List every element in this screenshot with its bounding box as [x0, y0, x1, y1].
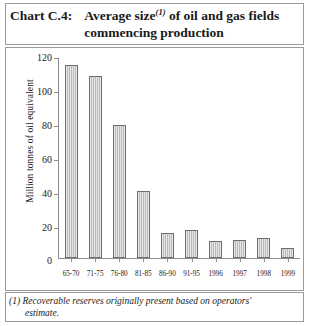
x-tick-mark [288, 258, 289, 262]
y-tick-label: 100 [37, 87, 52, 97]
bar [113, 125, 126, 258]
x-tick-mark [71, 258, 72, 262]
footnote-block: (1) Recoverable reserves originally pres… [5, 292, 304, 322]
bar [209, 241, 222, 258]
footnote-marker: (1) [156, 7, 166, 17]
bar [233, 240, 246, 258]
x-tick-label: 91-95 [183, 270, 200, 278]
bar [89, 76, 102, 258]
x-tick-label: 1997 [233, 270, 247, 278]
footnote-line-1: (1) Recoverable reserves originally pres… [9, 296, 251, 306]
y-tick-label: 0 [47, 256, 52, 266]
plot-area: 65-7071-7576-8081-8586-9091-951996199719… [58, 58, 300, 259]
y-axis-ticks: 120 100 80 60 40 20 0 [26, 48, 54, 292]
chart-figure: Chart C.4: Average size(1) of oil and ga… [0, 0, 309, 326]
x-tick-mark [143, 258, 144, 262]
page-title: Average size(1) of oil and gas fields co… [84, 7, 301, 41]
bar-slot: 1999 [276, 58, 300, 258]
bar [65, 65, 78, 258]
bar-slot: 76-80 [107, 58, 131, 258]
bar-slot: 65-70 [59, 58, 83, 258]
y-tick-label: 20 [42, 223, 52, 233]
x-tick-label: 1996 [208, 270, 222, 278]
x-tick-mark [240, 258, 241, 262]
bar [257, 238, 270, 258]
bar [137, 191, 150, 258]
bar-series: 65-7071-7576-8081-8586-9091-951996199719… [59, 58, 300, 258]
x-tick-mark [264, 258, 265, 262]
bar-slot: 1998 [252, 58, 276, 258]
y-tick-label: 40 [42, 189, 52, 199]
x-tick-label: 86-90 [159, 270, 176, 278]
bar-slot: 81-85 [131, 58, 155, 258]
bar-slot: 1997 [228, 58, 252, 258]
x-tick-mark [95, 258, 96, 262]
bar [185, 230, 198, 258]
x-tick-label: 1998 [257, 270, 271, 278]
y-tick-label: 80 [42, 121, 52, 131]
x-tick-mark [192, 258, 193, 262]
bar-slot: 86-90 [155, 58, 179, 258]
footnote-line-2: estimate. [9, 307, 300, 319]
x-tick-mark [167, 258, 168, 262]
bar-slot: 71-75 [83, 58, 107, 258]
bar-slot: 1996 [204, 58, 228, 258]
bar [281, 248, 294, 258]
chart-number-label: Chart C.4: [10, 7, 72, 24]
chart-title-block: Chart C.4: Average size(1) of oil and ga… [5, 3, 304, 45]
x-tick-mark [216, 258, 217, 262]
footnote-text: (1) Recoverable reserves originally pres… [9, 295, 300, 319]
chart-title-main: Average size [84, 8, 155, 23]
x-tick-label: 65-70 [63, 270, 80, 278]
x-tick-label: 71-75 [87, 270, 104, 278]
bar-slot: 91-95 [179, 58, 203, 258]
bar [161, 233, 174, 258]
x-tick-label: 81-85 [135, 270, 152, 278]
x-tick-label: 76-80 [111, 270, 128, 278]
x-tick-mark [119, 258, 120, 262]
x-tick-label: 1999 [281, 270, 295, 278]
plot-frame: Million tonnes of oil equivalent 120 100… [5, 47, 304, 291]
y-tick-label: 120 [37, 53, 52, 63]
y-tick-label: 60 [42, 155, 52, 165]
